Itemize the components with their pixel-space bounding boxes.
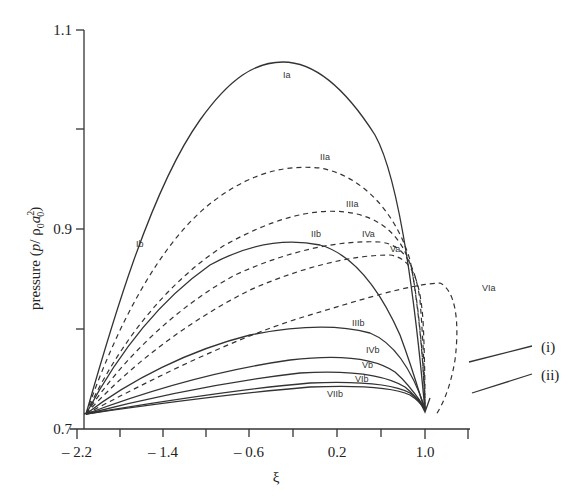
y-tick-label: 0.7 xyxy=(53,421,72,437)
curve-IIa xyxy=(86,167,425,414)
label-Ia: Ia xyxy=(283,70,291,80)
label-IIb: IIb xyxy=(311,229,321,239)
label-VIIb: VIIb xyxy=(327,389,343,399)
axes xyxy=(70,30,470,439)
label-IVb: IVb xyxy=(366,345,380,355)
label-IIIb: IIIb xyxy=(352,318,365,328)
x-tick-label: 0.2 xyxy=(328,444,347,460)
curve-Vb xyxy=(86,372,425,414)
annotation-line-ii xyxy=(472,374,532,393)
label-Vb: Vb xyxy=(362,360,373,370)
annotation-line-i xyxy=(469,346,532,362)
curve-labels: Ia Ib IIa IIIa IIb IVa Va VIa IIIb IVb V… xyxy=(136,70,496,399)
label-VIa: VIa xyxy=(482,283,496,293)
label-Va: Va xyxy=(390,244,400,254)
label-IIa: IIa xyxy=(320,152,330,162)
x-tick-label: – 1.4 xyxy=(147,444,179,460)
y-tick-label: 1.1 xyxy=(53,22,72,38)
label-IVa: IVa xyxy=(362,229,375,239)
y-tick-label: 0.9 xyxy=(53,221,72,237)
x-tick-label: – 2.2 xyxy=(61,444,92,460)
label-IIIa: IIIa xyxy=(346,199,359,209)
annotation-i: (i) xyxy=(541,339,555,356)
x-axis-title: ξ xyxy=(273,469,280,485)
label-Ib: Ib xyxy=(136,239,144,249)
curve-VIIb xyxy=(86,386,425,414)
y-axis-title: pressure (p/ ρ0a20) xyxy=(25,207,46,310)
x-tick-label: 1.0 xyxy=(416,444,435,460)
label-VIb: VIb xyxy=(355,374,369,384)
svg-text:pressure (p/ ρ0a20): pressure (p/ ρ0a20) xyxy=(25,207,46,310)
curve-IIIb xyxy=(86,327,425,414)
annotation-ii: (ii) xyxy=(541,367,559,384)
annotations: (i) (ii) xyxy=(469,339,559,393)
pressure-chart: 1.1 0.9 0.7 – 2.2 – 1.4 – 0.6 0.2 1.0 ξ … xyxy=(0,0,577,497)
x-tick-label: – 0.6 xyxy=(233,444,265,460)
